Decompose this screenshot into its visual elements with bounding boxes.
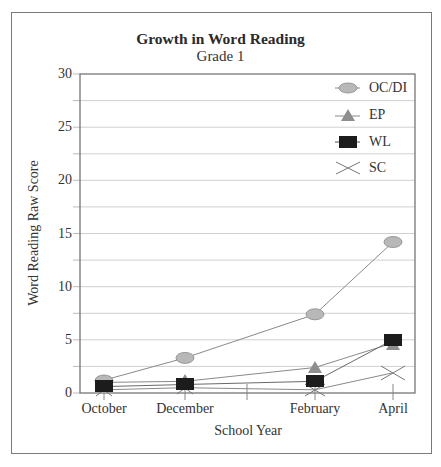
legend-label-ep: EP xyxy=(369,107,385,123)
series-ep-markers xyxy=(97,338,400,387)
series-ocdi-line xyxy=(104,242,393,380)
legend-wl-icon xyxy=(339,136,357,148)
legend-label-wl: WL xyxy=(369,134,391,150)
series-sc-line xyxy=(104,373,393,390)
legend-label-sc: SC xyxy=(369,160,386,176)
plot-area xyxy=(0,0,441,467)
legend-markers xyxy=(335,83,360,174)
legend-label-ocdi: OC/DI xyxy=(369,80,407,96)
series-wl-line xyxy=(104,340,393,387)
gridlines xyxy=(80,101,415,367)
legend-ocdi-icon xyxy=(339,83,357,93)
series-ocdi-markers xyxy=(95,237,402,387)
legend-sc-icon xyxy=(336,162,360,174)
legend-ep-icon xyxy=(341,109,355,121)
series-sc-markers xyxy=(96,366,405,396)
